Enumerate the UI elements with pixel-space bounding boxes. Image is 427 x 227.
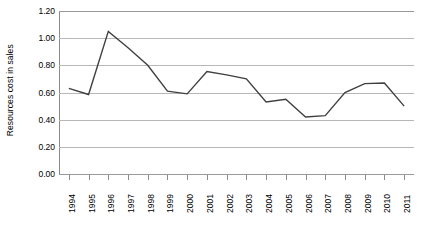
series-line-resources-cost-in-sales — [59, 11, 414, 174]
x-tick-label-text: 1998 — [147, 194, 156, 213]
x-tick-label-text: 1996 — [107, 194, 116, 213]
y-axis-tick-labels: 1.201.000.800.600.400.200.00 — [20, 0, 58, 180]
y-tick-label: 0.80 — [38, 61, 55, 70]
x-tick-label-text: 2002 — [226, 194, 235, 213]
x-tick — [365, 175, 366, 180]
y-axis-title-text: Resources cost in sales — [6, 44, 15, 136]
x-tick-label-text: 2003 — [245, 194, 254, 213]
x-tick — [128, 175, 129, 180]
x-tick-label-text: 1994 — [68, 194, 77, 213]
x-tick — [227, 175, 228, 180]
x-tick-label-text: 2009 — [364, 194, 373, 213]
x-tick-label-text: 1995 — [88, 194, 97, 213]
x-tick — [246, 175, 247, 180]
y-tick-label: 0.40 — [38, 116, 55, 125]
x-tick — [384, 175, 385, 180]
plot-area — [59, 11, 414, 174]
x-tick — [167, 175, 168, 180]
x-tick-label-text: 2008 — [344, 194, 353, 213]
x-tick-label-text: 2011 — [403, 195, 412, 213]
x-tick-label-text: 2010 — [383, 194, 392, 213]
x-tick — [325, 175, 326, 180]
x-tick-label-text: 2005 — [285, 194, 294, 213]
x-tick — [187, 175, 188, 180]
x-tick — [69, 175, 70, 180]
y-tick-label: 0.60 — [38, 89, 55, 98]
x-tick-label-text: 2006 — [305, 194, 314, 213]
y-tick-label: 0.00 — [38, 170, 55, 179]
x-tick — [207, 175, 208, 180]
x-tick — [266, 175, 267, 180]
y-tick-label: 1.20 — [38, 7, 55, 16]
y-tick-label: 0.20 — [38, 143, 55, 152]
x-tick-label-text: 2007 — [324, 194, 333, 213]
x-tick — [89, 175, 90, 180]
x-tick-label-text: 1997 — [127, 194, 136, 213]
x-tick — [404, 175, 405, 180]
x-tick — [286, 175, 287, 180]
x-tick — [108, 175, 109, 180]
x-tick-label-text: 2001 — [206, 194, 215, 213]
x-tick — [148, 175, 149, 180]
x-tick — [345, 175, 346, 180]
x-axis-tick-labels: 1994199519961997199819992000200120022003… — [59, 181, 414, 227]
x-tick-label-text: 2004 — [265, 194, 274, 213]
x-tick-label-text: 2000 — [186, 194, 195, 213]
line-chart: Resources cost in sales 1.201.000.800.60… — [0, 0, 427, 227]
x-tick-label-text: 1999 — [166, 194, 175, 213]
y-tick-label: 1.00 — [38, 34, 55, 43]
y-axis-title: Resources cost in sales — [0, 0, 20, 180]
x-tick — [306, 175, 307, 180]
